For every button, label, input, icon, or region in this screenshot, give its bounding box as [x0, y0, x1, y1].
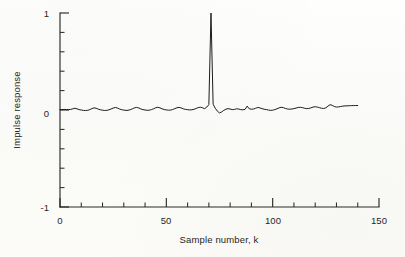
- x-tick-label-0: 0: [57, 215, 62, 226]
- y-tick-label-0: 0: [44, 108, 49, 119]
- x-tick-label-50: 50: [161, 215, 172, 226]
- x-tick-label-150: 150: [371, 215, 387, 226]
- x-tick-label-100: 100: [265, 215, 281, 226]
- impulse-response-curve: [60, 13, 358, 113]
- x-tick-labels: 0 50 100 150: [57, 215, 387, 226]
- y-axis-title: Impulse response: [11, 71, 22, 148]
- y-tick-label-1: 1: [44, 8, 49, 19]
- impulse-response-chart: 0 50 100 150 1 0 -1 Sample number, k Imp…: [0, 0, 405, 257]
- x-axis-title: Sample number, k: [180, 234, 259, 245]
- x-tick-group: [60, 198, 379, 207]
- figure-container: 0 50 100 150 1 0 -1 Sample number, k Imp…: [0, 0, 405, 257]
- y-tick-labels: 1 0 -1: [41, 8, 49, 213]
- y-tick-label-neg1: -1: [41, 202, 49, 213]
